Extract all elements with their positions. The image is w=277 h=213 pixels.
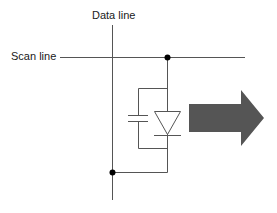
- diode: [154, 112, 181, 136]
- junction-dot-top: [165, 55, 171, 61]
- circuit-diagram: [0, 0, 277, 213]
- junction-dot-bottom: [110, 170, 116, 176]
- output-arrow-icon: [189, 90, 264, 146]
- capacitor: [128, 116, 148, 122]
